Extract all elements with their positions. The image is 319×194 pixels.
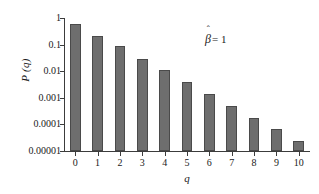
x-tick-mark <box>98 152 99 156</box>
bar <box>249 118 260 151</box>
bar <box>70 24 81 151</box>
x-tick-mark <box>120 152 121 156</box>
x-tick-label: 3 <box>140 157 145 169</box>
hat-accent: ˆ <box>207 26 210 32</box>
x-tick-mark <box>165 152 166 156</box>
bar <box>293 141 304 151</box>
equals-one-text: = 1 <box>212 33 226 45</box>
x-tick-mark <box>75 152 76 156</box>
x-tick-label: 10 <box>294 157 304 169</box>
bar <box>159 70 170 151</box>
y-axis-tick-labels: 10.10.010.0010.00010.00001 <box>0 0 64 194</box>
bar <box>271 129 282 151</box>
x-tick-mark <box>209 152 210 156</box>
y-tick-mark <box>60 151 64 152</box>
x-tick-label: 8 <box>252 157 257 169</box>
y-tick-mark <box>60 98 64 99</box>
y-tick-mark <box>60 18 64 19</box>
x-tick-label: 0 <box>73 157 78 169</box>
x-tick-label: 6 <box>207 157 212 169</box>
x-tick-mark <box>276 152 277 156</box>
x-tick-label: 9 <box>274 157 279 169</box>
plot-area <box>64 18 310 151</box>
y-tick-mark <box>60 45 64 46</box>
x-tick-mark <box>254 152 255 156</box>
beta-symbol: ˆβ <box>205 32 211 47</box>
bar <box>204 94 215 151</box>
bar <box>92 36 103 152</box>
x-axis-label: q <box>64 172 310 184</box>
x-tick-mark <box>299 152 300 156</box>
x-tick-label: 4 <box>162 157 167 169</box>
chart-figure: P (q) 10.10.010.0010.00010.00001 0123456… <box>0 0 319 194</box>
x-tick-mark <box>142 152 143 156</box>
bar <box>182 82 193 151</box>
bar <box>226 106 237 151</box>
bar <box>115 46 126 151</box>
y-tick-mark <box>60 124 64 125</box>
y-tick-label: 0.00001 <box>29 146 65 156</box>
x-tick-label: 5 <box>185 157 190 169</box>
y-tick-mark <box>60 71 64 72</box>
x-tick-label: 1 <box>95 157 100 169</box>
x-tick-mark <box>232 152 233 156</box>
x-tick-mark <box>187 152 188 156</box>
beta-hat-annotation: ˆβ= 1 <box>205 32 226 47</box>
beta-glyph: β <box>205 32 211 46</box>
x-tick-label: 2 <box>117 157 122 169</box>
x-axis-tick-labels: 012345678910 <box>64 157 310 173</box>
bar <box>137 59 148 151</box>
x-tick-label: 7 <box>229 157 234 169</box>
